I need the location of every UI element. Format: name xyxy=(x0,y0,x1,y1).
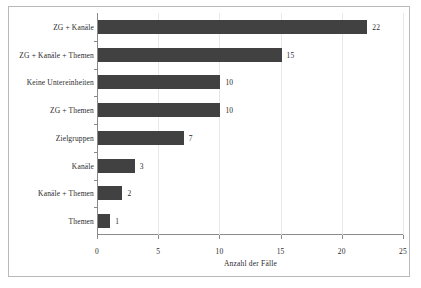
plot-area: 0510152025221510107321 xyxy=(97,13,404,235)
y-axis-tick xyxy=(94,124,97,125)
gridline xyxy=(403,13,404,235)
category-label: Kanäle + Themen xyxy=(38,189,94,198)
x-axis-tick-label: 25 xyxy=(399,247,407,256)
y-axis-line xyxy=(97,13,98,235)
figure-frame: ZG + KanäleZG + Kanäle + ThemenKeine Unt… xyxy=(8,6,410,277)
bar-row: 2 xyxy=(97,186,404,200)
x-axis-tick-label: 5 xyxy=(156,247,160,256)
x-axis-tick xyxy=(158,235,159,239)
bar-row: 3 xyxy=(97,159,404,173)
y-axis-tick xyxy=(94,180,97,181)
x-axis-tick xyxy=(219,235,220,239)
bar-value-label: 22 xyxy=(372,22,380,31)
bar xyxy=(98,186,122,200)
bar-row: 15 xyxy=(97,48,404,62)
bar xyxy=(98,75,220,89)
bar xyxy=(98,103,220,117)
category-label: Themen xyxy=(69,217,94,226)
bar-value-label: 15 xyxy=(287,50,295,59)
x-axis-tick xyxy=(281,235,282,239)
bar-row: 22 xyxy=(97,20,404,34)
y-axis-tick xyxy=(94,69,97,70)
gridline xyxy=(342,13,343,235)
x-axis-tick-label: 20 xyxy=(338,247,346,256)
x-axis-title: Anzahl der Fälle xyxy=(97,259,404,268)
bar-row: 10 xyxy=(97,103,404,117)
category-label: Zielgruppen xyxy=(56,133,94,142)
bar xyxy=(98,159,135,173)
bar xyxy=(98,131,184,145)
x-axis-tick xyxy=(342,235,343,239)
category-axis-labels: ZG + KanäleZG + Kanäle + ThemenKeine Unt… xyxy=(23,13,94,235)
x-axis-tick xyxy=(97,235,98,239)
category-label: ZG + Kanäle xyxy=(53,22,94,31)
gridline xyxy=(281,13,282,235)
bar xyxy=(98,214,110,228)
y-axis-tick xyxy=(94,152,97,153)
bar-row: 1 xyxy=(97,214,404,228)
category-label: ZG + Kanäle + Themen xyxy=(19,50,94,59)
category-label: Keine Untereinheiten xyxy=(27,78,94,87)
x-axis-tick-label: 15 xyxy=(277,247,285,256)
bar-value-label: 3 xyxy=(140,161,144,170)
bar-value-label: 10 xyxy=(225,78,233,87)
plot-inner: 0510152025221510107321 xyxy=(97,13,404,235)
category-label: ZG + Themen xyxy=(50,106,94,115)
y-axis-tick xyxy=(94,96,97,97)
bar-row: 10 xyxy=(97,75,404,89)
bar-value-label: 1 xyxy=(115,217,119,226)
x-axis-tick xyxy=(403,235,404,239)
bar-value-label: 10 xyxy=(225,106,233,115)
x-axis-tick-label: 0 xyxy=(95,247,99,256)
bar-value-label: 7 xyxy=(189,133,193,142)
bar xyxy=(98,20,367,34)
bar xyxy=(98,48,282,62)
gridline xyxy=(219,13,220,235)
y-axis-tick xyxy=(94,41,97,42)
bar-value-label: 2 xyxy=(127,189,131,198)
x-axis-tick-label: 10 xyxy=(215,247,223,256)
x-axis-line xyxy=(97,234,404,235)
bar-row: 7 xyxy=(97,131,404,145)
y-axis-tick xyxy=(94,207,97,208)
category-label: Kanäle xyxy=(72,161,94,170)
gridline xyxy=(158,13,159,235)
